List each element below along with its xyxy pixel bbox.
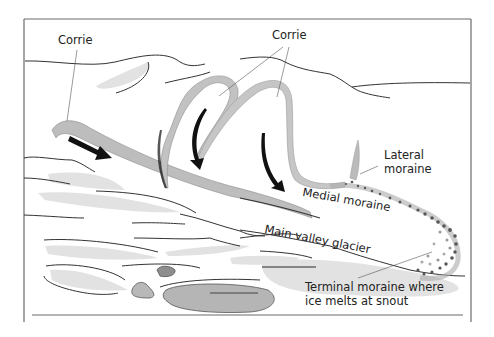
label-lateral-moraine-1: Lateral xyxy=(384,148,424,162)
label-terminal-moraine-1: Terminal moraine where xyxy=(305,280,444,294)
arrow-middle-corrie xyxy=(190,108,207,170)
label-lateral-moraine-2: moraine xyxy=(384,162,432,176)
lateral-moraine-fringe xyxy=(350,140,359,180)
label-corrie-left: Corrie xyxy=(58,33,93,47)
label-terminal-moraine-2: ice melts at snout xyxy=(305,294,408,308)
label-corrie-top: Corrie xyxy=(272,28,307,42)
arrow-right-corrie xyxy=(261,133,285,192)
